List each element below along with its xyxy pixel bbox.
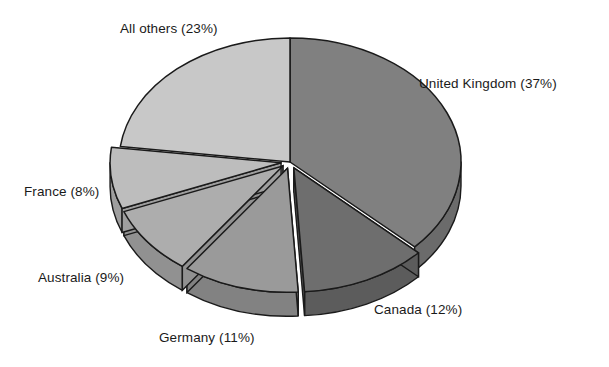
pie-chart: United Kingdom (37%) Canada (12%) German… — [0, 0, 609, 367]
slice-label-australia: Australia (9%) — [38, 271, 124, 285]
slice-label-germany: Germany (11%) — [159, 331, 255, 345]
slice-label-france: France (8%) — [24, 185, 99, 199]
pie-top-faces — [110, 38, 461, 292]
slice-label-united-kingdom: United Kingdom (37%) — [419, 77, 557, 91]
slice-label-all-others: All others (23%) — [120, 22, 218, 36]
slice-label-canada: Canada (12%) — [374, 303, 462, 317]
